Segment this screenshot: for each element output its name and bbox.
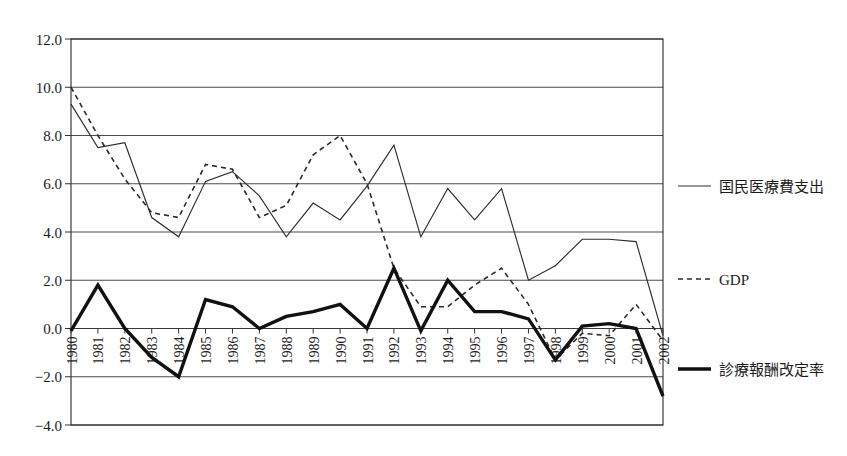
x-tick-label-1981: 1981 — [91, 337, 106, 365]
x-tick-label-1992: 1992 — [387, 337, 402, 365]
y-tick-label: 10.0 — [36, 80, 62, 96]
x-tick-label-2002: 2002 — [657, 337, 672, 365]
legend-item-medical[interactable]: 国民医療費支出 — [678, 179, 824, 195]
y-tick-label: 6.0 — [43, 176, 62, 192]
legend-item-revision[interactable]: 診療報酬改定率 — [678, 362, 824, 378]
y-axis-tick-labels: 12.010.08.06.04.02.00.0−2.0−4.0 — [35, 32, 71, 434]
x-tick-label-1995: 1995 — [468, 337, 483, 365]
x-tick-label-1986: 1986 — [226, 337, 241, 365]
legend-label-medical: 国民医療費支出 — [719, 179, 824, 195]
y-tick-label: 2.0 — [43, 273, 62, 289]
x-tick-label-1993: 1993 — [414, 337, 429, 365]
chart-figure: · · · · · · · · · · · · · · · · · · · · … — [0, 0, 847, 456]
x-tick-label-1985: 1985 — [199, 337, 214, 365]
x-tick-label-1980: 1980 — [65, 337, 80, 365]
y-tick-label: 12.0 — [36, 32, 62, 48]
line-chart: 12.010.08.06.04.02.00.0−2.0−4.0 19801981… — [0, 0, 847, 456]
chart-legend: 国民医療費支出GDP診療報酬改定率 — [678, 179, 824, 378]
legend-label-gdp: GDP — [719, 272, 749, 288]
x-tick-label-1982: 1982 — [118, 337, 133, 365]
y-tick-label: 4.0 — [43, 225, 62, 241]
y-tick-label: 8.0 — [43, 128, 62, 144]
x-tick-label-1989: 1989 — [307, 337, 322, 365]
x-tick-label-2000: 2000 — [603, 337, 618, 365]
x-tick-label-1996: 1996 — [495, 337, 510, 365]
y-tick-label: −4.0 — [35, 418, 62, 434]
x-tick-label-1997: 1997 — [522, 337, 537, 365]
x-tick-label-1990: 1990 — [334, 337, 349, 365]
x-tick-label-1999: 1999 — [576, 337, 591, 365]
x-tick-label-1987: 1987 — [253, 337, 268, 365]
y-tick-label: −2.0 — [35, 369, 62, 385]
series-line-medical-expenditure — [71, 104, 663, 336]
legend-item-gdp[interactable]: GDP — [678, 272, 749, 288]
x-tick-label-1991: 1991 — [361, 337, 376, 365]
x-tick-label-1994: 1994 — [441, 337, 456, 365]
legend-label-revision: 診療報酬改定率 — [719, 362, 824, 378]
y-tick-label: 0.0 — [43, 321, 62, 337]
x-tick-label-1988: 1988 — [280, 337, 295, 365]
gridlines-group — [71, 39, 663, 425]
